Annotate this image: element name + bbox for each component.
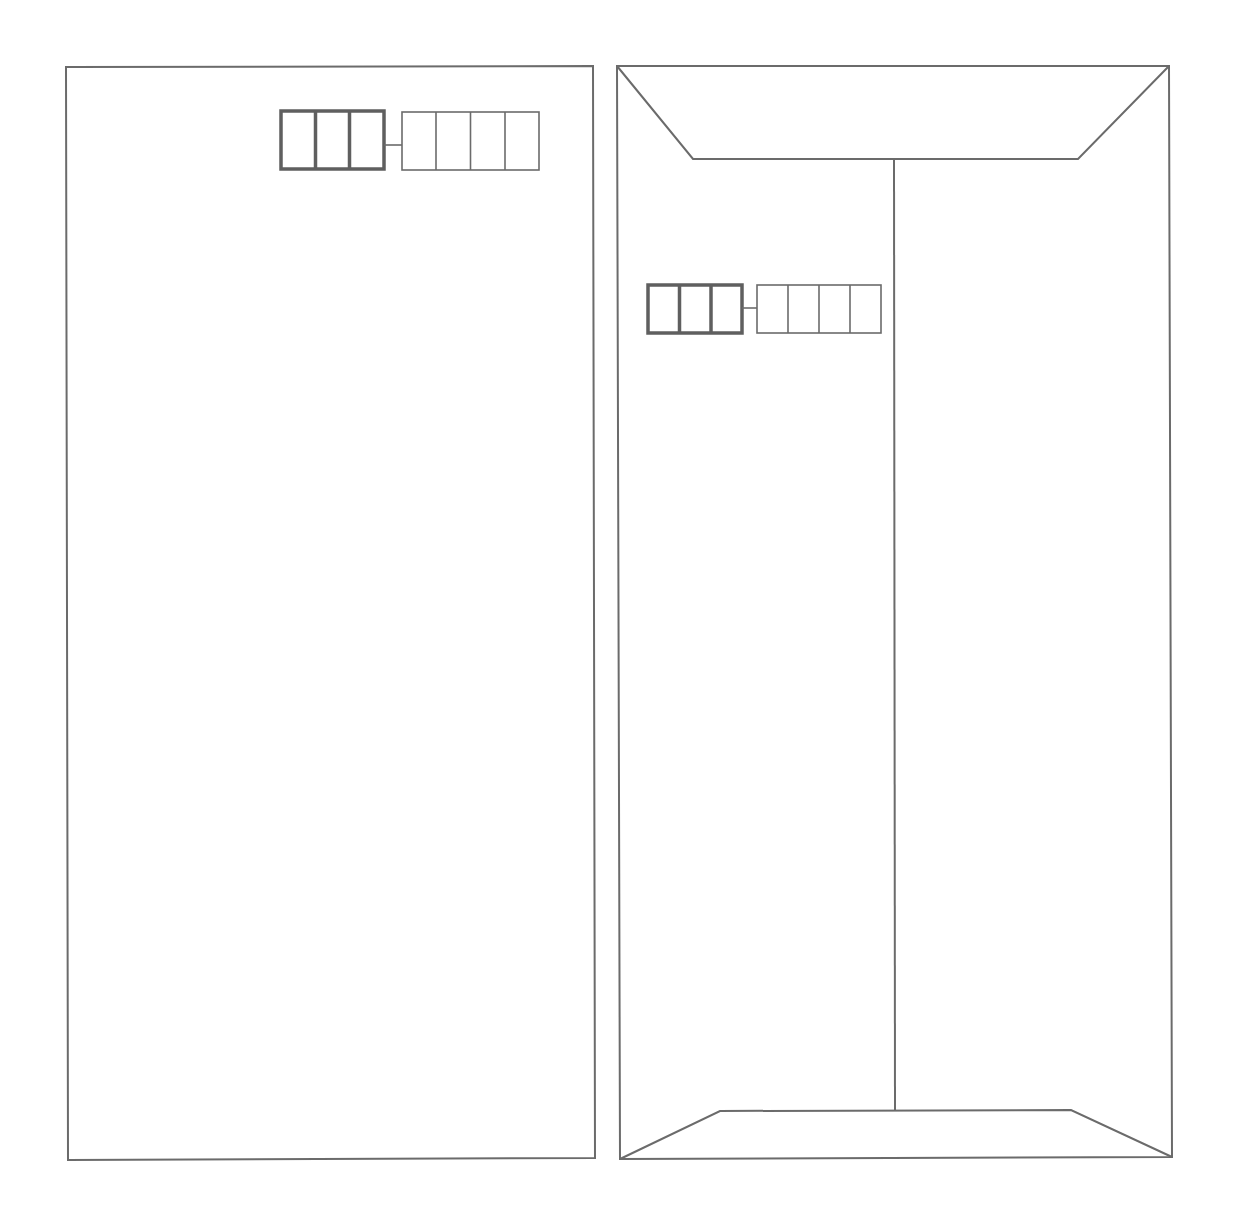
top-flap bbox=[617, 66, 1169, 159]
postal-code-boxes-front bbox=[281, 111, 539, 170]
postal-code-last-four-digits bbox=[757, 285, 881, 333]
bottom-flap bbox=[620, 1110, 1172, 1159]
postal-box-group-outline bbox=[648, 285, 742, 333]
postal-box-group-outline bbox=[281, 111, 384, 169]
envelope-diagram bbox=[0, 0, 1236, 1220]
envelope-back bbox=[617, 66, 1172, 1159]
center-seam bbox=[894, 159, 895, 1110]
envelope-front bbox=[66, 66, 595, 1160]
envelope-front-outline bbox=[66, 66, 595, 1160]
postal-code-boxes-back bbox=[648, 285, 881, 333]
postal-code-first-three-digits bbox=[648, 285, 742, 333]
postal-code-first-three-digits bbox=[281, 111, 384, 169]
postal-code-last-four-digits bbox=[402, 112, 539, 170]
